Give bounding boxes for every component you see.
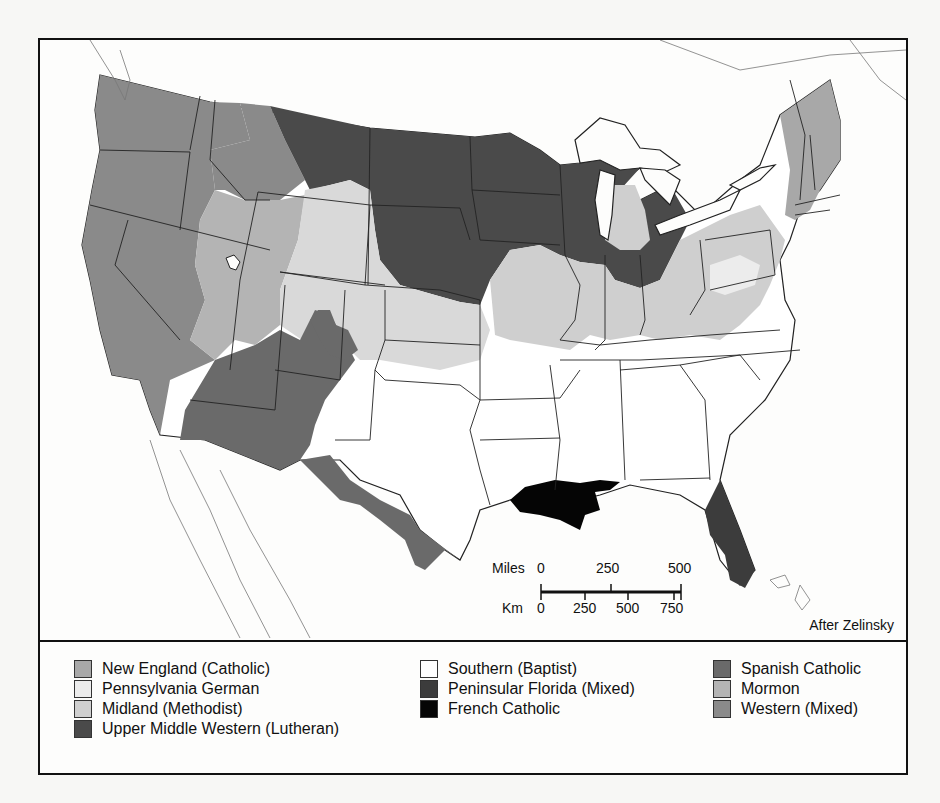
legend-label: Western (Mixed) bbox=[741, 699, 858, 719]
us-religious-regions-map bbox=[40, 40, 906, 640]
region-new-england bbox=[780, 80, 840, 220]
legend-item-peninsular-florida: Peninsular Florida (Mixed) bbox=[420, 679, 635, 699]
swatch-southern bbox=[420, 660, 438, 678]
scale-km-tick-750: 750 bbox=[660, 600, 683, 616]
scale-km-tick-0: 0 bbox=[537, 600, 545, 616]
map-credit: After Zelinsky bbox=[809, 617, 894, 633]
legend-item-pennsylvania-german: Pennsylvania German bbox=[74, 679, 339, 699]
swatch-french-catholic bbox=[420, 700, 438, 718]
legend-item-spanish-catholic: Spanish Catholic bbox=[713, 659, 861, 679]
legend-label: French Catholic bbox=[448, 699, 560, 719]
map-legend: New England (Catholic) Pennsylvania Germ… bbox=[40, 640, 906, 773]
swatch-western bbox=[713, 700, 731, 718]
legend-column-1: New England (Catholic) Pennsylvania Germ… bbox=[74, 659, 339, 739]
swatch-mormon bbox=[713, 680, 731, 698]
swatch-new-england bbox=[74, 660, 92, 678]
legend-label: Pennsylvania German bbox=[102, 679, 259, 699]
swatch-spanish-catholic bbox=[713, 660, 731, 678]
legend-item-french-catholic: French Catholic bbox=[420, 699, 635, 719]
legend-label: Peninsular Florida (Mixed) bbox=[448, 679, 635, 699]
legend-label: Mormon bbox=[741, 679, 800, 699]
scale-km-tick-500: 500 bbox=[616, 600, 639, 616]
legend-item-southern: Southern (Baptist) bbox=[420, 659, 635, 679]
legend-column-2: Southern (Baptist) Peninsular Florida (M… bbox=[420, 659, 635, 719]
legend-item-mormon: Mormon bbox=[713, 679, 861, 699]
legend-label: Southern (Baptist) bbox=[448, 659, 577, 679]
swatch-upper-middle-western bbox=[74, 720, 92, 738]
legend-label: New England (Catholic) bbox=[102, 659, 270, 679]
legend-column-3: Spanish Catholic Mormon Western (Mixed) bbox=[713, 659, 861, 719]
legend-label: Midland (Methodist) bbox=[102, 699, 243, 719]
scale-bar: Miles 0 250 500 Km 0 250 500 750 bbox=[488, 560, 718, 624]
scale-km-label: Km bbox=[502, 600, 523, 616]
legend-label: Spanish Catholic bbox=[741, 659, 861, 679]
swatch-pennsylvania-german bbox=[74, 680, 92, 698]
swatch-midland bbox=[74, 700, 92, 718]
scale-km-tick-250: 250 bbox=[573, 600, 596, 616]
swatch-peninsular-florida bbox=[420, 680, 438, 698]
map-frame: Miles 0 250 500 Km 0 250 500 750 After Z… bbox=[38, 38, 908, 775]
legend-item-upper-middle-western: Upper Middle Western (Lutheran) bbox=[74, 719, 339, 739]
legend-item-midland: Midland (Methodist) bbox=[74, 699, 339, 719]
legend-item-western: Western (Mixed) bbox=[713, 699, 861, 719]
map-area: Miles 0 250 500 Km 0 250 500 750 After Z… bbox=[40, 40, 906, 640]
legend-label: Upper Middle Western (Lutheran) bbox=[102, 719, 339, 739]
region-french-catholic bbox=[510, 480, 620, 530]
legend-item-new-england: New England (Catholic) bbox=[74, 659, 339, 679]
